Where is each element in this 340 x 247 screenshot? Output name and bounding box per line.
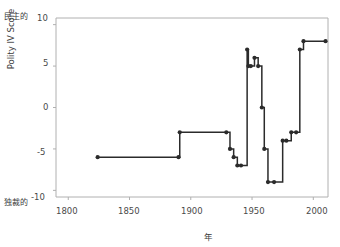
axes-group xyxy=(53,18,328,200)
series-group xyxy=(96,39,328,184)
plot-area xyxy=(0,0,340,247)
polity-score-chart: Polity IV Score 民主的 独裁的 年 10 5 0 -5 -10 … xyxy=(0,0,340,247)
